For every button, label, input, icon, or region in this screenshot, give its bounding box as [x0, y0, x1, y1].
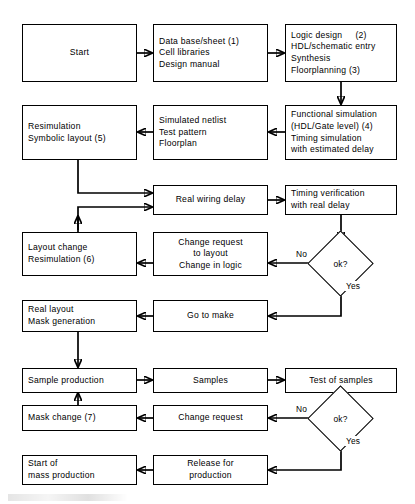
node-line: Logic design (2)	[286, 30, 396, 42]
node-logic-design[interactable]: Logic design (2) HDL/schematic entry Syn…	[285, 24, 397, 82]
node-line: Synthesis	[286, 53, 396, 65]
node-line: Functional simulation	[286, 109, 396, 121]
decision-ok-2[interactable]: ok?	[317, 395, 364, 442]
node-line: Go to make	[187, 310, 234, 322]
node-line: Release for	[187, 458, 234, 470]
node-line: Real layout	[23, 304, 136, 316]
node-simulated-netlist[interactable]: Simulated netlist Test pattern Floorplan	[153, 105, 268, 160]
node-line: Start	[70, 47, 89, 59]
node-resimulation[interactable]: Resimulation Symbolic layout (5)	[22, 105, 137, 160]
node-line: Mask change (7)	[23, 412, 136, 424]
node-line: Floorplanning (3)	[286, 65, 396, 77]
node-line: HDL/schematic entry	[286, 41, 396, 53]
node-real-wiring-delay[interactable]: Real wiring delay	[153, 185, 268, 215]
edge-label-yes-2: Yes	[345, 436, 361, 446]
node-line: Layout change	[23, 242, 136, 254]
node-line: Change request	[178, 237, 243, 249]
node-line: with estimated delay	[286, 144, 396, 156]
node-line: Design manual	[154, 59, 267, 71]
node-line: with real delay	[286, 200, 396, 212]
node-line: Start of	[23, 458, 136, 470]
node-start[interactable]: Start	[22, 24, 137, 82]
node-line: Test pattern	[154, 127, 267, 139]
node-layout-change[interactable]: Layout change Resimulation (6)	[22, 232, 137, 276]
node-line: Data base/sheet (1)	[154, 36, 267, 48]
node-line: Samples	[193, 375, 228, 387]
decision-ok-1[interactable]: ok?	[317, 240, 364, 287]
node-functional-simulation[interactable]: Functional simulation (HDL/Gate level) (…	[285, 105, 397, 160]
node-line: Resimulation (6)	[23, 254, 136, 266]
node-change-request-to-layout[interactable]: Change request to layout Change in logic	[153, 232, 268, 276]
node-line: Timing simulation	[286, 133, 396, 145]
node-line: Real wiring delay	[176, 194, 246, 206]
node-line: production	[189, 470, 232, 482]
node-line: Change request	[178, 412, 243, 424]
edge-label-no-1: No	[295, 249, 308, 259]
node-line: (HDL/Gate level) (4)	[286, 121, 396, 133]
node-line: Timing verification	[286, 188, 396, 200]
node-release-for-production[interactable]: Release for production	[153, 455, 268, 485]
edge-label-no-2: No	[295, 404, 308, 414]
node-timing-verification[interactable]: Timing verification with real delay	[285, 185, 397, 215]
node-database[interactable]: Data base/sheet (1) Cell libraries Desig…	[153, 24, 268, 82]
node-line: to layout	[193, 248, 228, 260]
node-line: Sample production	[23, 375, 136, 387]
node-line: Simulated netlist	[154, 115, 267, 127]
edge-label-yes-1: Yes	[345, 281, 361, 291]
node-real-layout[interactable]: Real layout Mask generation	[22, 300, 137, 332]
node-line: Resimulation	[23, 121, 136, 133]
decision-label: ok?	[317, 240, 364, 287]
node-mask-change[interactable]: Mask change (7)	[22, 405, 137, 431]
node-line: Change in logic	[179, 260, 242, 272]
flowchart-canvas: Start Data base/sheet (1) Cell libraries…	[0, 0, 415, 504]
node-line: Mask generation	[23, 316, 136, 328]
node-line: Floorplan	[154, 138, 267, 150]
node-sample-production[interactable]: Sample production	[22, 368, 137, 393]
node-start-of-mass-production[interactable]: Start of mass production	[22, 455, 137, 485]
node-samples[interactable]: Samples	[153, 368, 268, 393]
node-line: Cell libraries	[154, 47, 267, 59]
node-go-to-make[interactable]: Go to make	[153, 300, 268, 332]
node-change-request[interactable]: Change request	[153, 405, 268, 431]
decision-label: ok?	[317, 395, 364, 442]
node-line: Symbolic layout (5)	[23, 133, 136, 145]
node-line: Test of samples	[309, 375, 372, 387]
node-line: mass production	[23, 470, 136, 482]
